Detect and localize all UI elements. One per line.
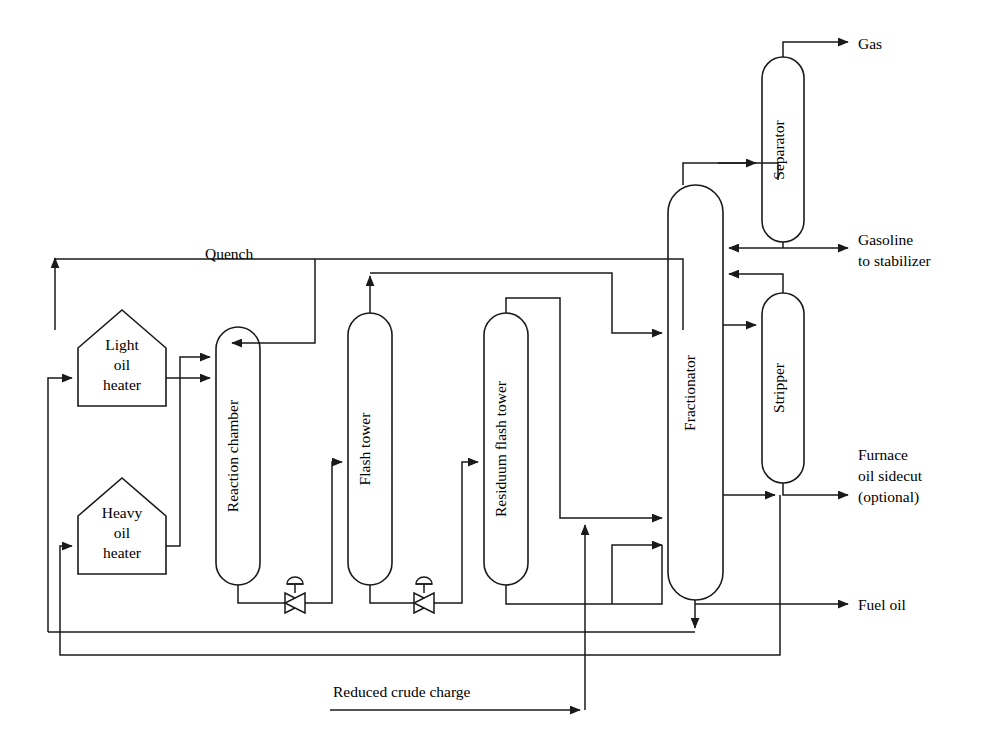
stream-residuum-bottoms-to-fractionator — [612, 545, 662, 604]
heavy-oil-heater-label-line1: Heavy — [102, 504, 143, 521]
unit-residuum-flash-tower[interactable]: Residuum flash tower — [484, 313, 528, 585]
unit-heavy-oil-heater[interactable]: Heavy oil heater — [78, 478, 166, 574]
furnace-oil-label-line1: Furnace — [858, 446, 908, 463]
furnace-oil-label-line3: (optional) — [858, 488, 919, 506]
flash-tower-label: Flash tower — [356, 412, 373, 486]
unit-fractionator[interactable]: Fractionator — [668, 185, 723, 600]
fuel-oil-label: Fuel oil — [858, 596, 906, 613]
valve-flash-tower-outlet[interactable] — [414, 577, 434, 613]
stripper-label: Stripper — [770, 362, 787, 413]
furnace-oil-label-line2: oil sidecut — [858, 467, 923, 484]
light-oil-heater-label-line3: heater — [103, 376, 142, 393]
stream-stripper-overhead — [729, 274, 783, 293]
stream-heavy-oil-to-reactor — [166, 357, 210, 546]
unit-separator[interactable]: Separator — [762, 57, 804, 242]
reaction-chamber-label: Reaction chamber — [224, 399, 241, 512]
stream-fractionator-bottoms — [48, 600, 695, 632]
unit-reaction-chamber[interactable]: Reaction chamber — [216, 327, 260, 585]
gasoline-label-line1: Gasoline — [858, 231, 913, 248]
residuum-flash-tower-label: Residuum flash tower — [492, 380, 509, 517]
light-oil-heater-label-line1: Light — [105, 336, 139, 353]
unit-stripper[interactable]: Stripper — [762, 293, 804, 483]
process-flow-diagram-canvas: Light oil heater Heavy oil heater Reacti… — [0, 0, 995, 745]
stream-separator-gas — [783, 42, 848, 57]
stream-separator-bottoms — [729, 242, 848, 248]
gas-label: Gas — [858, 35, 882, 52]
reduced-crude-charge-label: Reduced crude charge — [333, 683, 471, 700]
light-oil-heater-label-line2: oil — [114, 356, 130, 373]
unit-light-oil-heater[interactable]: Light oil heater — [78, 310, 166, 406]
process-flow-diagram: Light oil heater Heavy oil heater Reacti… — [0, 0, 995, 745]
stream-residuum-overhead — [506, 298, 662, 518]
unit-flash-tower[interactable]: Flash tower — [348, 313, 392, 585]
quench-label: Quench — [205, 245, 253, 262]
stream-heavy-oil-feed — [60, 546, 72, 608]
heavy-oil-heater-label-line2: oil — [114, 524, 130, 541]
gasoline-label-line2: to stabilizer — [858, 252, 932, 269]
heavy-oil-heater-label-line3: heater — [103, 544, 142, 561]
valve-reaction-chamber-outlet[interactable] — [285, 577, 305, 613]
stream-residuum-bottoms — [506, 545, 662, 604]
stream-stripper-bottoms — [783, 483, 848, 495]
fractionator-label: Fractionator — [681, 354, 698, 431]
